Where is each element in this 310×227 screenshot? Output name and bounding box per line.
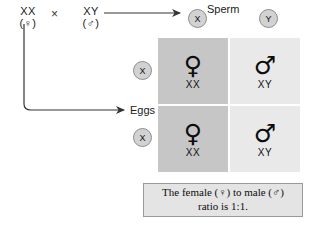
male-symbol-icon: ♂ (254, 53, 276, 78)
egg-gamete-x-top: X (133, 61, 152, 80)
sperm-gamete-x: X (188, 9, 207, 28)
male-symbol-icon: ♂ (254, 121, 276, 146)
ratio-caption-line2: ratio is 1:1. (198, 200, 248, 212)
punnett-cell-genotype: XY (258, 79, 273, 90)
punnett-square-grid: ♀ XX ♂ XY ♀ XX ♂ XY (158, 38, 300, 172)
punnett-cell-xy-top-right: ♂ XY (230, 38, 300, 104)
punnett-cell-xx-top-left: ♀ XX (158, 38, 228, 104)
sperm-gamete-y: Y (259, 9, 278, 28)
eggs-label: Eggs (130, 104, 155, 116)
female-symbol-icon: ♀ (184, 53, 202, 78)
punnett-cell-genotype: XX (186, 79, 201, 90)
punnett-cell-genotype: XY (258, 147, 273, 158)
egg-gamete-x-top-allele: X (139, 66, 145, 76)
female-parent-genotype: XX (♀) (8, 6, 48, 30)
punnett-cell-xx-bottom-left: ♀ XX (158, 106, 228, 172)
female-parent-sex-symbol: (♀) (8, 18, 48, 30)
punnett-cell-genotype: XX (186, 147, 201, 158)
genetics-punnett-diagram: XX (♀) × XY (♂) Sperm X Y Eggs X X ♀ (0, 0, 310, 227)
punnett-cell-xy-bottom-right: ♂ XY (230, 106, 300, 172)
female-symbol-icon: ♀ (184, 121, 202, 146)
male-parent-sex-symbol: (♂) (71, 18, 111, 30)
sperm-gamete-x-allele: X (194, 14, 200, 24)
male-parent-genotype: XY (♂) (71, 6, 111, 30)
egg-gamete-x-bottom: X (133, 128, 152, 147)
sperm-gamete-y-allele: Y (265, 14, 271, 24)
egg-gamete-x-bottom-allele: X (139, 133, 145, 143)
ratio-caption-box: The female (♀) to male (♂) ratio is 1:1. (143, 183, 303, 217)
sperm-label: Sperm (207, 3, 239, 15)
cross-symbol: × (51, 7, 58, 21)
arrow-female-to-eggs (24, 24, 124, 110)
ratio-caption-line1: The female (♀) to male (♂) (162, 186, 284, 198)
